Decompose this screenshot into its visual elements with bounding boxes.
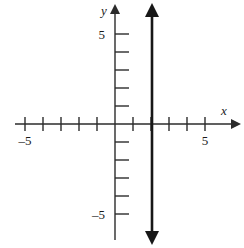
x-axis-label: x	[220, 103, 227, 118]
function-arrowhead-up-icon	[145, 3, 159, 17]
y-axis-label: y	[99, 3, 107, 18]
x-axis-arrowhead-icon	[231, 119, 241, 129]
x-tick-label--5: –5	[18, 133, 32, 148]
function-arrowhead-down-icon	[145, 231, 159, 245]
y-axis-arrowhead-icon	[110, 4, 120, 14]
x-tick-label-5: 5	[202, 133, 209, 148]
y-tick-label-5: 5	[99, 27, 106, 42]
graph-svg: x y –5 5 5 –5	[0, 0, 244, 248]
coordinate-plane-graph: x y –5 5 5 –5	[0, 0, 244, 248]
y-tick-label--5: –5	[91, 207, 105, 222]
